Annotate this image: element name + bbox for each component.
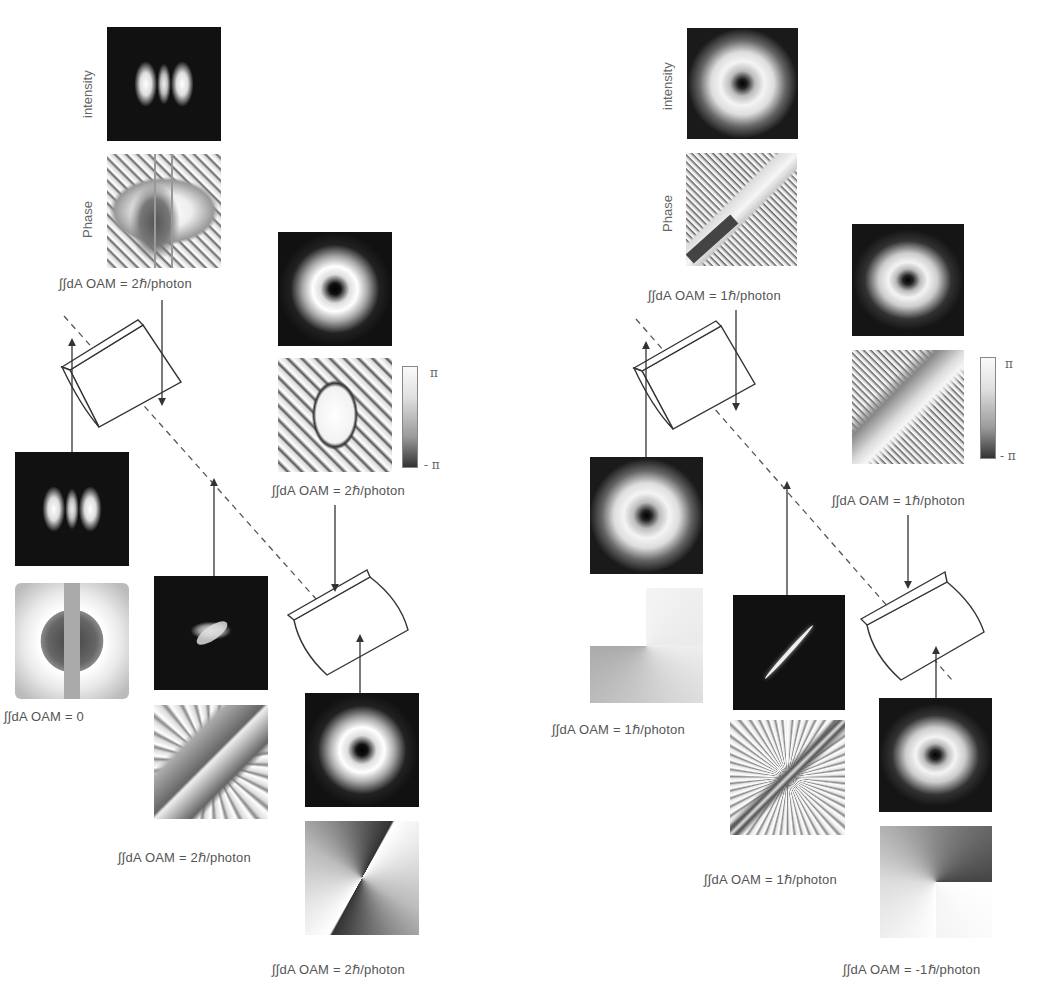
right-optical-path xyxy=(0,0,1037,985)
cylindrical-lens-2-icon xyxy=(861,572,984,680)
